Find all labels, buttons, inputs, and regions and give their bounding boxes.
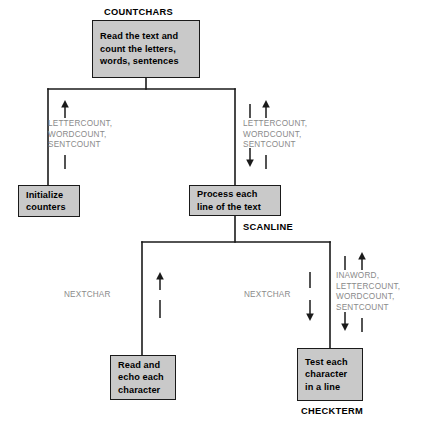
module-box-countchars[interactable]: Read the text and count the letters, wor…: [92, 20, 200, 78]
module-text-countchars: Read the text and count the letters, wor…: [100, 30, 179, 67]
module-text-initialize: Initialize counters: [26, 189, 66, 214]
data-couple-init-out: LETTERCOUNT, WORDCOUNT, SENTCOUNT: [48, 119, 112, 151]
data-couple-checkterm-in: NEXTCHAR: [244, 290, 291, 301]
module-box-readecho[interactable]: Read and echo each character: [110, 355, 176, 400]
module-label-checkterm: CHECKTERM: [301, 406, 363, 416]
data-couple-checkterm-io: INAWORD, LETTERCOUNT, WORDCOUNT, SENTCOU…: [336, 271, 400, 313]
data-couple-readecho-out: NEXTCHAR: [64, 290, 111, 301]
module-box-initialize[interactable]: Initialize counters: [18, 185, 80, 217]
module-box-scanline[interactable]: Process each line of the text: [189, 185, 281, 216]
module-box-checkterm[interactable]: Test each character in a line: [297, 348, 363, 401]
module-text-readecho: Read and echo each character: [118, 359, 164, 396]
data-couple-scanline-io: LETTERCOUNT, WORDCOUNT, SENTCOUNT: [243, 119, 307, 151]
module-text-scanline: Process each line of the text: [197, 188, 261, 213]
module-label-countchars: COUNTCHARS: [104, 7, 173, 17]
structure-chart: COUNTCHARS SCANLINE CHECKTERM Read the t…: [0, 0, 426, 425]
module-label-scanline: SCANLINE: [243, 222, 293, 232]
couple-arrow-readecho-out: [156, 272, 164, 318]
module-text-checkterm: Test each character in a line: [305, 356, 348, 393]
couple-arrow-checkterm-in: [306, 272, 314, 321]
